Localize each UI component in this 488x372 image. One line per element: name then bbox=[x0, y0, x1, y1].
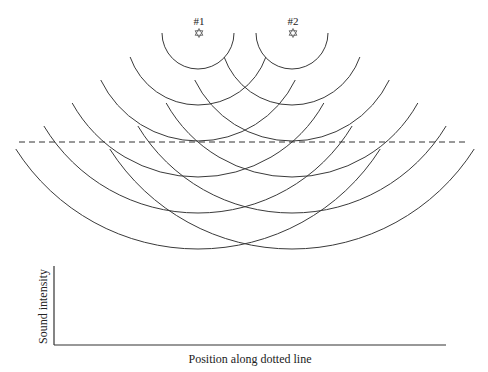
source-2-label: #2 bbox=[288, 15, 299, 27]
source-1: #1 bbox=[194, 15, 205, 38]
wavefront-arc-source-1 bbox=[162, 33, 234, 69]
wavefront-arc-source-1 bbox=[130, 57, 266, 105]
wavefront-arc-source-2 bbox=[166, 103, 418, 177]
star-outline-icon bbox=[289, 29, 297, 38]
source-2: #2 bbox=[288, 15, 299, 38]
x-axis-label: Position along dotted line bbox=[189, 352, 312, 366]
wavefront-arc-source-2 bbox=[138, 126, 446, 213]
wavefront-arc-source-1 bbox=[72, 103, 324, 177]
wavefront-arc-source-1 bbox=[101, 80, 295, 141]
wavefront-arc-source-2 bbox=[195, 80, 389, 141]
star-outline-icon bbox=[195, 29, 203, 38]
wavefront-arc-source-1 bbox=[44, 126, 352, 213]
y-axis-label: Sound intensity bbox=[36, 269, 50, 344]
wavefront-arc-source-2 bbox=[256, 33, 328, 69]
wavefront-arc-source-1 bbox=[16, 149, 380, 249]
source-1-label: #1 bbox=[194, 15, 205, 27]
wavefront-arc-source-2 bbox=[224, 57, 360, 105]
intensity-graph: Sound intensity Position along dotted li… bbox=[36, 266, 446, 366]
interference-diagram: #1 #2 Sound intensity Position along dot… bbox=[0, 0, 488, 372]
wavefront-arc-source-2 bbox=[110, 149, 474, 249]
wavefront-arcs bbox=[16, 33, 474, 249]
